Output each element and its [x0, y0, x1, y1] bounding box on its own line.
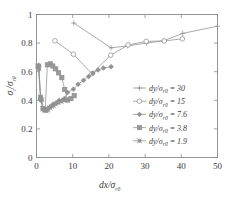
x-tick-label: 30	[141, 161, 151, 171]
chart-figure: 01020304050 00.20.40.60.81 dx/σr0 σr/σr0…	[0, 0, 230, 199]
x-tick-label: 0	[34, 161, 39, 171]
data-point	[162, 39, 167, 44]
y-tick-label: 0.4	[21, 96, 33, 106]
legend-label: dy/σr0 = 7.6	[149, 110, 187, 120]
data-point	[39, 97, 44, 102]
x-tick-label: 10	[68, 161, 78, 171]
scatter-line-chart: 01020304050 00.20.40.60.81 dx/σr0 σr/σr0…	[0, 0, 230, 199]
legend-label: dy/σr0 = 15	[149, 97, 185, 107]
data-point	[63, 87, 67, 91]
data-point	[144, 39, 149, 44]
y-tick-label: 0.2	[21, 124, 32, 134]
x-tick-label: 20	[104, 161, 114, 171]
legend-label: dy/σr0 = 30	[149, 84, 185, 94]
data-point	[108, 53, 113, 58]
y-tick-label: 0.8	[21, 38, 33, 48]
data-point	[60, 76, 64, 80]
x-tick-label: 50	[213, 161, 223, 171]
data-point	[137, 99, 142, 104]
x-title-sub: r0	[115, 186, 120, 192]
data-point	[37, 66, 42, 71]
data-point	[137, 126, 141, 130]
y-tick-label: 0.6	[21, 67, 33, 77]
y-title-sub2: r0	[11, 76, 17, 81]
data-point	[137, 138, 142, 143]
data-point	[62, 98, 67, 103]
y-tick-label: 1	[28, 10, 33, 20]
data-point	[56, 71, 60, 75]
legend-label: dy/σr0 = 3.8	[149, 124, 187, 134]
y-tick-label: 0	[28, 153, 33, 163]
data-point	[71, 52, 76, 57]
legend-label: dy/σr0 = 1.9	[149, 137, 187, 147]
x-tick-label: 40	[177, 161, 187, 171]
data-point	[53, 39, 58, 44]
data-point	[72, 94, 76, 98]
data-point	[54, 67, 58, 71]
data-point	[180, 37, 185, 42]
data-point	[126, 43, 131, 48]
